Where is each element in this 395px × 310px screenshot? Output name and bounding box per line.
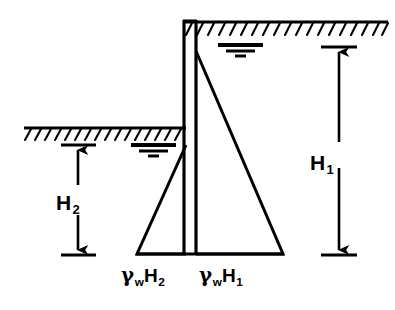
retaining-wall-diagram	[0, 0, 395, 310]
dimension-label-h1: H1	[310, 152, 334, 173]
dimension-h1	[321, 47, 357, 255]
ground-line-upper	[184, 22, 388, 35]
dimension-label-h2: H2	[56, 192, 80, 213]
pressure-label-left: γwH2	[121, 266, 165, 286]
retaining-wall	[183, 20, 197, 255]
ground-hatching-upper	[186, 23, 388, 35]
water-table-symbol-right	[218, 45, 263, 56]
water-table-symbol-left	[131, 145, 176, 156]
ground-line-lower	[24, 128, 186, 140]
hydrostatic-pressure-triangle-left	[137, 145, 186, 254]
ground-hatching-lower	[25, 129, 181, 140]
pressure-label-right: γwH1	[199, 266, 243, 286]
hydrostatic-pressure-triangle-right	[196, 51, 283, 254]
diagram-canvas: H2 H1 γwH2 γwH1	[0, 0, 395, 310]
